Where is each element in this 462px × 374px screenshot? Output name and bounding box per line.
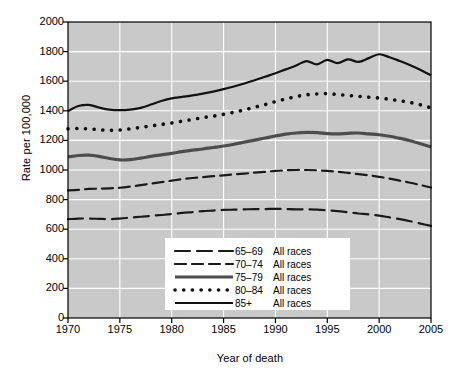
x-tick-label: 1995 [302, 323, 352, 335]
x-tick-label: 2000 [354, 323, 404, 335]
chart-figure: 0200400600800100012001400160018002000 19… [0, 0, 462, 374]
legend-races-label: All races [273, 246, 311, 257]
x-tick-label: 1990 [250, 323, 300, 335]
legend-item-85plus: 85+All races [165, 296, 350, 310]
legend-key-swatch [173, 244, 235, 258]
x-tick-label: 2005 [406, 323, 456, 335]
legend-item-80-84: 80–84All races [165, 283, 350, 297]
legend-age-label: 75–79 [235, 272, 273, 283]
x-tick-label: 1970 [43, 323, 93, 335]
legend-item-75-79: 75–79All races [165, 270, 350, 284]
legend-item-70-74: 70–74All races [165, 257, 350, 271]
legend-key-swatch [173, 270, 235, 284]
chart-plot-area [0, 0, 462, 374]
legend-races-label: All races [273, 259, 311, 270]
x-tick-label: 1985 [199, 323, 249, 335]
x-tick-label: 1975 [95, 323, 145, 335]
x-axis-title: Year of death [68, 352, 432, 364]
legend-races-label: All races [273, 285, 311, 296]
y-axis-title: Rate per 100,000 [20, 48, 32, 228]
y-tick-label: 400 [20, 253, 64, 264]
legend-age-label: 85+ [235, 298, 273, 309]
legend-age-label: 80–84 [235, 285, 273, 296]
chart-legend: 65–69All races70–74All races75–79All rac… [165, 238, 350, 310]
legend-age-label: 65–69 [235, 246, 273, 257]
legend-key-swatch [173, 283, 235, 297]
legend-age-label: 70–74 [235, 259, 273, 270]
y-tick-label: 200 [20, 282, 64, 293]
y-tick-label: 2000 [20, 16, 64, 27]
legend-races-label: All races [273, 298, 311, 309]
legend-item-65-69: 65–69All races [165, 244, 350, 258]
legend-key-swatch [173, 296, 235, 310]
legend-races-label: All races [273, 272, 311, 283]
y-tick-label: 0 [20, 312, 64, 323]
x-tick-label: 1980 [147, 323, 197, 335]
legend-key-swatch [173, 257, 235, 271]
